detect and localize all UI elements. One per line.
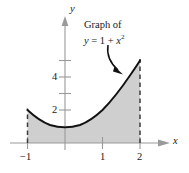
x-axis-arrowhead: [158, 140, 170, 147]
y-axis-arrowhead: [62, 16, 69, 26]
curve-callout-annotation: Graph of y = 1 + x2: [84, 18, 125, 47]
x-tick-label-minus-1: −1: [20, 152, 31, 163]
callout-equals: = 1 +: [89, 35, 117, 46]
y-tick-label-4: 4: [52, 72, 57, 83]
x-tick-label-1: 1: [100, 152, 105, 163]
callout-leader-arrow: [108, 45, 118, 70]
callout-line-2: y = 1 + x2: [84, 33, 125, 47]
callout-exponent: 2: [121, 33, 125, 41]
y-tick-label-2: 2: [52, 105, 57, 116]
shaded-area-under-curve: [28, 61, 141, 144]
callout-arrowhead: [113, 67, 123, 75]
x-tick-label-2: 2: [137, 152, 142, 163]
figure-graph-of-y-equals-1-plus-x-squared: 4 2 −1 1 2 y x Graph of y = 1 + x2: [0, 0, 189, 173]
x-axis-label: x: [173, 136, 178, 147]
y-axis-label: y: [70, 4, 75, 15]
callout-line-1: Graph of: [84, 18, 125, 31]
